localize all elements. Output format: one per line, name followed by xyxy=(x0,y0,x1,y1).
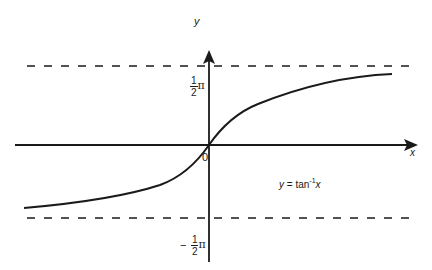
arctan-diagram xyxy=(0,0,432,270)
lower-asymptote-sign: − xyxy=(180,239,186,251)
origin-label: 0 xyxy=(202,152,208,163)
y-axis-label: y xyxy=(194,16,200,27)
equation-label: y = tan-1x xyxy=(279,180,321,190)
upper-asymptote-fraction: 1 2 xyxy=(190,75,198,98)
arctan-curve xyxy=(24,74,392,208)
pi-symbol: π xyxy=(198,238,205,251)
lower-asymptote-label: − 1 2 π xyxy=(180,234,206,257)
x-axis-label: x xyxy=(410,148,415,158)
pi-symbol: π xyxy=(198,79,205,92)
upper-asymptote-label: 1 2 π xyxy=(190,75,205,98)
